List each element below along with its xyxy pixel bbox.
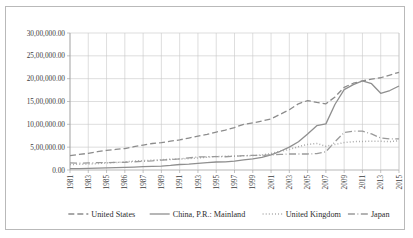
x-axis-tick-label: 1989 <box>158 175 166 190</box>
line-chart: 0.005,00,000.0010,00,000.0015,00,000.002… <box>0 0 413 238</box>
x-axis-tick-label: 2011 <box>359 175 367 190</box>
x-axis-tick-label: 1985 <box>103 175 111 190</box>
y-axis-tick-label: 25,00,000.00 <box>27 51 66 60</box>
y-axis-tick-label: 30,00,000.00 <box>27 29 66 38</box>
x-axis-tick-label: 2013 <box>377 175 385 190</box>
x-axis-tick-label: 2005 <box>304 175 312 190</box>
y-axis-tick-label: 20,00,000.00 <box>27 74 66 83</box>
y-axis-tick-label: 10,00,000.00 <box>27 120 66 129</box>
x-axis-tick-label: 1986 <box>121 175 129 190</box>
x-axis-tick-label: 2015 <box>396 175 404 190</box>
x-axis-ticks <box>70 170 399 173</box>
legend-label-1[interactable]: United States <box>91 210 135 219</box>
x-axis-tick-label: 1997 <box>231 175 239 190</box>
x-axis-tick-label: 1993 <box>195 175 203 190</box>
legend-label-3[interactable]: United Kingdom <box>286 210 342 219</box>
x-axis-tick-label: 1981 <box>67 175 75 190</box>
x-axis-tick-label: 1999 <box>249 175 257 190</box>
legend-label-2[interactable]: China, P.R.: Mainland <box>173 210 246 219</box>
chart-container: 0.005,00,000.0010,00,000.0015,00,000.002… <box>0 0 413 238</box>
y-axis-tick-label: 15,00,000.00 <box>27 97 66 106</box>
x-axis-tick-label: 2009 <box>341 175 349 190</box>
y-axis-ticks <box>67 33 70 170</box>
x-axis-labels: 1981198319851986198719891991199319951997… <box>67 175 404 190</box>
x-axis-tick-label: 1991 <box>176 175 184 190</box>
legend: United StatesChina, P.R.: MainlandUnited… <box>68 210 389 219</box>
x-axis-tick-label: 2003 <box>286 175 294 190</box>
y-axis-labels: 0.005,00,000.0010,00,000.0015,00,000.002… <box>27 29 66 175</box>
x-axis-tick-label: 1983 <box>85 175 93 190</box>
legend-label-4[interactable]: Japan <box>371 210 390 219</box>
x-axis-tick-label: 1995 <box>213 175 221 190</box>
y-axis-tick-label: 5,00,000.00 <box>30 143 65 152</box>
x-axis-tick-label: 1987 <box>140 175 148 190</box>
y-axis-tick-label: 0.00 <box>52 166 65 175</box>
x-axis-tick-label: 2001 <box>268 175 276 190</box>
x-axis-tick-label: 2007 <box>322 175 330 190</box>
